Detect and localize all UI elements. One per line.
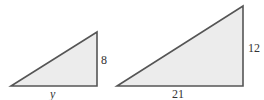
large-triangle-height-label: 12 [248,41,260,55]
small-triangle [11,32,97,86]
large-triangle-base-label: 21 [172,87,184,100]
large-triangle [117,6,243,86]
small-triangle-base-label: y [49,87,56,100]
small-triangle-height-label: 8 [101,53,107,67]
similar-triangles-diagram: 8 y 12 21 [0,0,264,100]
